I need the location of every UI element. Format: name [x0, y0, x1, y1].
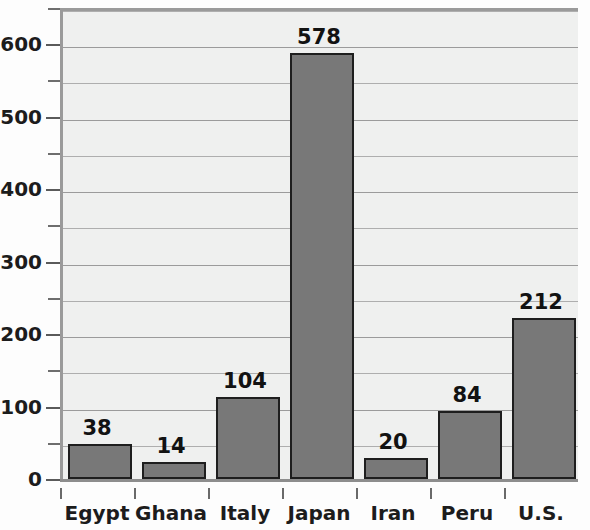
y-axis-label: 100	[0, 395, 42, 419]
x-axis-category-label: Iran	[370, 501, 415, 525]
y-axis-label: 500	[0, 105, 42, 129]
y-tick-minor	[48, 80, 60, 82]
y-tick-minor	[48, 298, 60, 300]
x-tick	[430, 488, 432, 499]
chart-page: 0100200300400500600 38141045782084212 Eg…	[0, 0, 590, 530]
y-tick-major	[46, 262, 60, 264]
x-axis-category-label: Egypt	[65, 501, 130, 525]
bar[interactable]	[512, 318, 576, 479]
y-tick-minor	[48, 8, 60, 10]
y-tick-major	[46, 334, 60, 336]
bar[interactable]	[216, 397, 280, 479]
y-tick-major	[46, 189, 60, 191]
x-tick	[356, 488, 358, 499]
bar[interactable]	[364, 458, 428, 479]
x-axis-line	[60, 479, 578, 482]
bar[interactable]	[68, 444, 132, 479]
y-axis-label: 300	[0, 250, 42, 274]
y-tick-minor	[48, 370, 60, 372]
bar-value-label: 578	[297, 25, 341, 49]
y-axis: 0100200300400500600	[0, 0, 60, 530]
y-axis-label: 400	[0, 177, 42, 201]
x-axis-category-label: Ghana	[135, 501, 207, 525]
bar-value-label: 14	[156, 434, 185, 458]
y-tick-minor	[48, 225, 60, 227]
x-axis-category-label: Japan	[288, 501, 351, 525]
plot-area	[60, 8, 578, 479]
bar[interactable]	[142, 462, 206, 479]
y-axis-label: 600	[0, 32, 42, 56]
y-tick-minor	[48, 443, 60, 445]
y-tick-major	[46, 407, 60, 409]
x-axis: EgyptGhanaItalyJapanIranPeruU.S.	[0, 479, 590, 530]
bar-value-label: 212	[519, 290, 563, 314]
x-tick	[60, 488, 62, 499]
y-tick-minor	[48, 153, 60, 155]
bar-value-label: 38	[82, 416, 111, 440]
bar-value-label: 84	[452, 383, 481, 407]
x-tick	[134, 488, 136, 499]
x-tick	[208, 488, 210, 499]
x-axis-category-label: U.S.	[518, 501, 564, 525]
gridline-minor	[63, 11, 578, 12]
bar-value-label: 104	[223, 369, 267, 393]
x-tick	[282, 488, 284, 499]
bar-value-label: 20	[378, 430, 407, 454]
x-axis-category-label: Peru	[441, 501, 493, 525]
x-axis-category-label: Italy	[220, 501, 270, 525]
y-axis-label: 200	[0, 322, 42, 346]
y-tick-major	[46, 44, 60, 46]
x-tick	[504, 488, 506, 499]
bar[interactable]	[438, 411, 502, 479]
y-tick-major	[46, 117, 60, 119]
bar[interactable]	[290, 53, 354, 479]
